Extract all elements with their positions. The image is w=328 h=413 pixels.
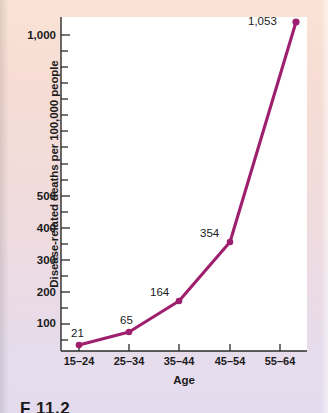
data-series-line bbox=[79, 22, 296, 345]
data-point-45-54 bbox=[227, 239, 234, 246]
data-point-25-34 bbox=[126, 329, 133, 336]
figure-caption-partial: F 11.2 bbox=[20, 399, 310, 413]
data-point-markers bbox=[76, 18, 300, 348]
y-axis-ticks bbox=[61, 35, 70, 340]
scanned-page-background: Disease-related deaths per 100,000 peopl… bbox=[0, 0, 328, 413]
data-point-15-24 bbox=[76, 342, 83, 349]
chart-graphics bbox=[0, 0, 328, 413]
chart-figure: Disease-related deaths per 100,000 peopl… bbox=[0, 0, 328, 413]
data-point-35-44 bbox=[176, 298, 183, 305]
data-point-55-64 bbox=[292, 18, 299, 25]
x-axis-ticks bbox=[79, 344, 280, 351]
